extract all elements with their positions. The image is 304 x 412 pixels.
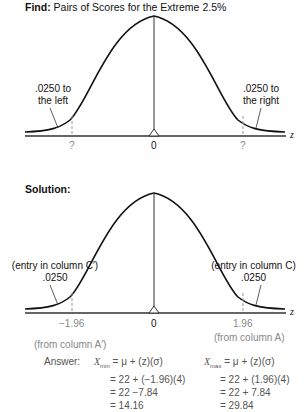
top-left-annotation: .0250 to the left	[28, 83, 78, 107]
bottom-right-annotation: (entry in column C) .0250	[203, 260, 304, 284]
top-left-label-2: the left	[28, 95, 78, 107]
answer-max-line-2: = 22 + 7.84	[204, 386, 289, 399]
answer-max-line-1: = 22 + (1.96)(4)	[204, 373, 289, 386]
answer-max-line-3: = 29.84	[204, 399, 289, 412]
top-title-text: Pairs of Scores for the Extreme 2.5%	[51, 1, 227, 13]
top-right-pointer	[256, 108, 261, 128]
top-left-label-1: .0250 to	[28, 83, 78, 95]
answer-max-block: Xmax = μ + (z)(σ) = 22 + (1.96)(4) = 22 …	[204, 355, 289, 412]
top-axis-label: z	[290, 129, 294, 140]
bottom-axis-label: z	[290, 306, 294, 317]
top-title: Find: Pairs of Scores for the Extreme 2.…	[25, 1, 226, 13]
bottom-right-pointer	[256, 285, 261, 305]
bottom-right-tick: 1.96	[233, 318, 252, 329]
top-right-tick: ?	[240, 140, 246, 151]
bottom-mean-triangle-icon	[149, 306, 159, 313]
top-left-tick: ?	[69, 140, 75, 151]
bottom-left-source: (from column A′)	[34, 339, 106, 350]
answer-min-line-0: Xmin = μ + (z)(σ)	[94, 355, 185, 373]
answer-max-formula: = μ + (z)(σ)	[224, 356, 274, 367]
top-mean-triangle-icon	[149, 129, 159, 136]
bottom-right-label-2: .0250	[203, 272, 304, 284]
bottom-left-annotation: (entry in column C′) .0250	[0, 260, 110, 284]
bottom-left-label-1: (entry in column C′)	[0, 260, 110, 272]
top-right-label-2: the right	[236, 95, 286, 107]
answer-label: Answer:	[44, 355, 80, 368]
bottom-right-source: (from column A)	[214, 332, 285, 343]
solution-title: Solution:	[25, 183, 71, 195]
top-center-tick: 0	[151, 140, 157, 151]
bottom-right-label-1: (entry in column C)	[203, 260, 304, 272]
answer-max-sub: max	[210, 363, 221, 369]
answer-min-formula: = μ + (z)(σ)	[113, 356, 163, 367]
top-left-pointer	[50, 108, 58, 128]
answer-min-block: Xmin = μ + (z)(σ) = 22 + (−1.96)(4) = 22…	[94, 355, 185, 412]
bottom-left-label-2: .0250	[0, 272, 110, 284]
bottom-center-tick: 0	[151, 318, 157, 329]
answer-min-line-3: = 14.16	[94, 399, 185, 412]
top-right-label-1: .0250 to	[236, 83, 286, 95]
top-normal-curve	[25, 16, 285, 132]
answer-min-line-2: = 22 −7.84	[94, 386, 185, 399]
answer-min-line-1: = 22 + (−1.96)(4)	[94, 373, 185, 386]
bottom-normal-curve	[25, 193, 285, 309]
answer-max-line-0: Xmax = μ + (z)(σ)	[204, 355, 289, 373]
top-right-annotation: .0250 to the right	[236, 83, 286, 107]
bottom-left-pointer	[50, 285, 58, 305]
bottom-left-tick: −1.96	[59, 318, 84, 329]
top-title-bold: Find:	[25, 1, 51, 13]
answer-min-sub: min	[100, 363, 110, 369]
